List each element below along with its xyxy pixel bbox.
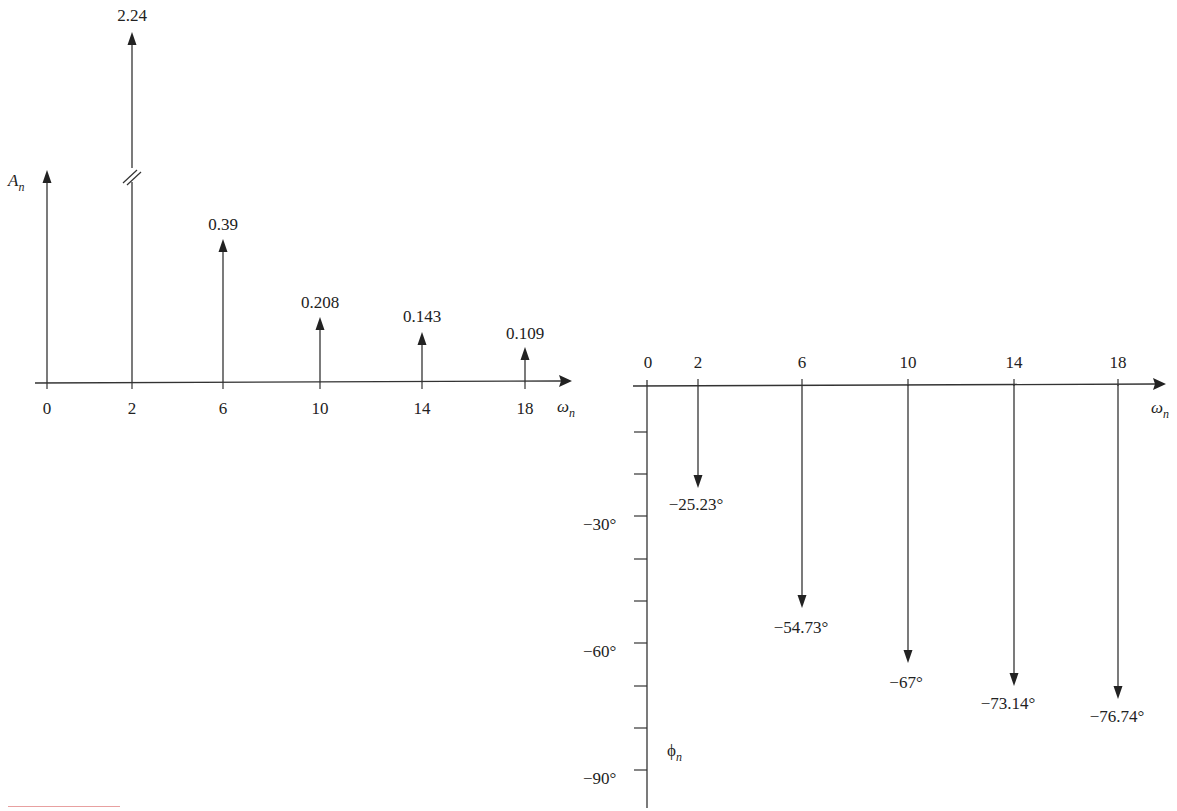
phase-value-label: −67° (889, 674, 922, 691)
phase-x-tick-label: 6 (798, 354, 807, 371)
phase-x-label: ωn (1151, 399, 1169, 416)
amplitude-x-tick-label: 6 (219, 400, 228, 417)
amplitude-y-label: An (8, 172, 24, 189)
phase-value-label: −76.74° (1090, 708, 1145, 725)
amplitude-x-tick-label: 18 (517, 400, 534, 417)
amplitude-value-label: 0.143 (403, 308, 441, 325)
amplitude-x-label: ωn (557, 398, 575, 415)
phase-x-tick-label: 0 (644, 354, 653, 371)
spectrum-plots (0, 0, 1177, 811)
phase-value-label: −73.14° (981, 695, 1036, 712)
phase-x-axis (633, 384, 1155, 386)
page-edge-mark (8, 806, 120, 807)
phase-x-tick-label: 18 (1110, 354, 1127, 371)
amplitude-x-tick-label: 14 (414, 400, 431, 417)
amplitude-value-label: 0.39 (208, 216, 238, 233)
phase-value-label: −54.73° (774, 619, 829, 636)
phase-y-ticks (634, 432, 647, 770)
phase-value-label: −25.23° (669, 496, 724, 513)
phase-y-tick-label: −30° (583, 516, 616, 533)
phase-x-tick-label: 14 (1006, 354, 1023, 371)
amplitude-value-label: 2.24 (117, 7, 147, 24)
phase-x-tick-label: 2 (694, 354, 703, 371)
amplitude-value-label: 0.208 (301, 294, 339, 311)
phase-x-tick-label: 10 (900, 354, 917, 371)
amplitude-chart (35, 32, 572, 389)
amplitude-x-tick-label: 10 (312, 400, 329, 417)
phase-y-tick-label: −60° (583, 643, 616, 660)
amplitude-x-axis (35, 381, 562, 383)
phase-y-tick-label: −90° (583, 770, 616, 787)
amplitude-x-tick-label: 0 (43, 400, 52, 417)
phase-y-label: ϕn (667, 742, 682, 759)
amplitude-value-label: 0.109 (506, 325, 544, 342)
amplitude-x-tick-label: 2 (128, 400, 137, 417)
phase-chart (633, 378, 1166, 808)
arrow-up-icon (43, 32, 530, 360)
